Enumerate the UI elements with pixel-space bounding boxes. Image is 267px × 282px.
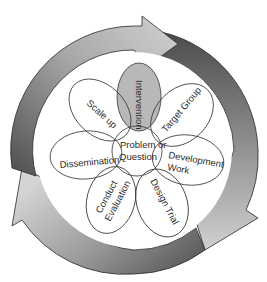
cycle-diagram: Intervention Target Group Development Wo…	[0, 0, 267, 282]
label-center-1: Problem or	[120, 139, 166, 150]
label-center-2: Question	[119, 151, 157, 162]
diagram-canvas: Intervention Target Group Development Wo…	[0, 0, 267, 282]
label-intervention: Intervention	[134, 80, 145, 130]
